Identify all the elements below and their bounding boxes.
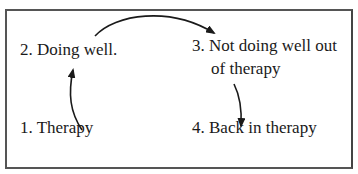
arrow-1-to-2 xyxy=(70,70,82,130)
arrow-3-to-4 xyxy=(234,84,241,126)
arrows-layer xyxy=(0,0,358,174)
arrow-2-to-3 xyxy=(95,16,214,36)
